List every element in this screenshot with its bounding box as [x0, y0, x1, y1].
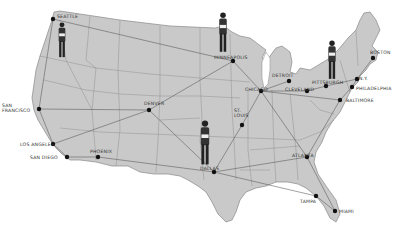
city-label-phoenix: PHOENIX — [90, 149, 112, 154]
city-label-boston: BOSTON — [370, 50, 391, 55]
city-label-minneapolis: MINNEAPOLIS — [214, 55, 248, 60]
city-label-atlanta: ATLANTA — [292, 153, 314, 158]
city-label-cleveland: CLEVELAND — [285, 87, 314, 92]
map-canvas — [0, 0, 395, 236]
us-landmass — [32, 11, 380, 222]
city-label-baltimore: BALTIMORE — [346, 98, 374, 103]
city-label-new-york: N.Y. — [359, 76, 368, 81]
city-dot-boston[interactable] — [371, 56, 375, 60]
city-label-denver: DENVER — [144, 101, 164, 106]
city-label-pittsburgh: PITTSBURGH — [312, 80, 343, 85]
city-label-philadelphia: PHILADELPHIA — [356, 86, 392, 91]
city-dot-tampa[interactable] — [314, 194, 318, 198]
city-label-chicago: CHICAGO — [245, 87, 268, 92]
city-dot-denver[interactable] — [147, 108, 151, 112]
city-label-san-diego: SAN DIEGO — [30, 155, 58, 160]
city-dot-detroit[interactable] — [287, 79, 291, 83]
city-dot-seattle[interactable] — [51, 17, 55, 21]
city-label-san-francisco: SANFRANCISCO — [2, 103, 30, 113]
city-label-st-louis: ST.LOUIS — [234, 108, 249, 118]
city-dot-baltimore[interactable] — [338, 98, 342, 102]
city-label-detroit: DETROIT — [272, 73, 294, 78]
city-dot-st-louis[interactable] — [240, 123, 244, 127]
city-label-tampa: TAMPA — [300, 199, 316, 204]
city-dot-san-francisco[interactable] — [37, 107, 41, 111]
city-label-dallas: DALLAS — [200, 166, 219, 171]
city-dot-san-diego[interactable] — [65, 155, 69, 159]
city-dot-philadelphia[interactable] — [350, 85, 354, 89]
city-dot-phoenix[interactable] — [96, 155, 100, 159]
city-dot-miami[interactable] — [333, 209, 337, 213]
city-label-seattle: SEATTLE — [57, 14, 78, 19]
us-route-map: SEATTLESANFRANCISCOLOS ANGELESSAN DIEGOP… — [0, 0, 395, 236]
city-label-los-angeles: LOS ANGELES — [20, 142, 54, 147]
city-label-miami: MIAMI — [339, 209, 354, 214]
